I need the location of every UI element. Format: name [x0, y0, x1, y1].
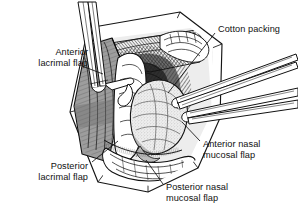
- label-line: lacrimal flap: [14, 58, 88, 69]
- label-posterior-lacrimal-flap: Posterior lacrimal flap: [10, 161, 88, 184]
- label-line: mucosal flap: [166, 193, 228, 204]
- label-line: mucosal flap: [203, 150, 260, 161]
- label-line: Anterior nasal: [203, 139, 260, 150]
- label-line: lacrimal flap: [10, 172, 88, 183]
- label-cotton-packing: Cotton packing: [218, 24, 280, 35]
- label-line: Posterior: [10, 161, 88, 172]
- label-posterior-nasal-mucosal-flap: Posterior nasal mucosal flap: [166, 182, 228, 205]
- label-line: Posterior nasal: [166, 182, 228, 193]
- surgical-illustration-figure: Anterior lacrimal flap Posterior lacrima…: [0, 0, 298, 215]
- label-line: Anterior: [14, 47, 88, 58]
- label-anterior-nasal-mucosal-flap: Anterior nasal mucosal flap: [203, 139, 260, 162]
- label-line: Cotton packing: [218, 24, 280, 35]
- label-anterior-lacrimal-flap: Anterior lacrimal flap: [14, 47, 88, 70]
